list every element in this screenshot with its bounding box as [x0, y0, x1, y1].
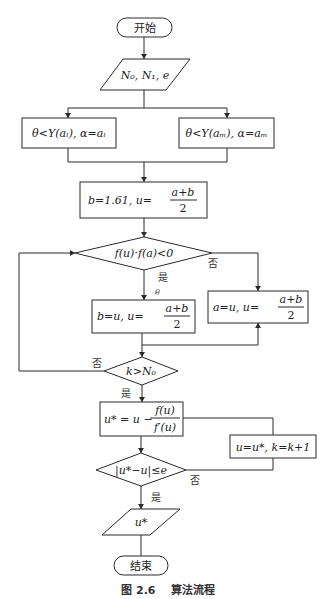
branch-right-label: θ<Y(aₘ), α=aₘ [186, 127, 268, 140]
update-b-numerator: a+b [166, 302, 189, 315]
figure-caption: 图 2.6 算法流程 [121, 583, 215, 597]
end-terminal: 结束 [114, 556, 168, 575]
theta-note: θ [155, 288, 160, 297]
newton-numerator: f(u) [154, 404, 175, 417]
branch-right-box: θ<Y(aₘ), α=aₘ [179, 118, 274, 148]
condition-3-label: |u*−u|≤e [115, 464, 168, 478]
branch-left-box: θ<Y(aₗ), α=aₗ [22, 118, 116, 148]
condition-3-yes: 是 [151, 492, 161, 503]
start-label: 开始 [134, 21, 156, 35]
condition-2-yes: 是 [121, 388, 131, 399]
update-k-label: u=u*, k=k+1 [236, 441, 311, 454]
start-terminal: 开始 [117, 18, 172, 37]
condition-2-no: 否 [92, 358, 102, 369]
newton-denominator: f′(u) [153, 421, 176, 434]
condition-1-yes: 是 [158, 272, 168, 283]
condition-2-label: k>N₀ [126, 365, 157, 378]
condition-3-no: 否 [190, 475, 200, 486]
update-b-denominator: 2 [174, 318, 181, 331]
input-parallelogram: N₀, N₁, e [100, 59, 190, 90]
output-parallelogram: u* [102, 509, 180, 535]
update-k-box: u=u*, k=k+1 [230, 435, 316, 458]
newton-step-box: u* = u − f(u) f′(u) [100, 402, 183, 436]
condition-3-diamond: |u*−u|≤e 是 否 [96, 453, 200, 503]
newton-prefix: u* = u − [104, 413, 153, 426]
condition-2-diamond: k>N₀ 是 否 [92, 357, 178, 399]
input-label: N₀, N₁, e [120, 69, 170, 82]
init-prefix: b=1.61, u= [88, 194, 152, 207]
update-a-box: a=u, u= a+b 2 [208, 291, 308, 323]
update-b-box: b=u, u= a+b 2 [92, 300, 195, 333]
update-a-numerator: a+b [280, 293, 303, 306]
init-box: b=1.61, u= a+b 2 [80, 182, 207, 218]
condition-1-no: 否 [208, 258, 218, 269]
update-a-denominator: 2 [288, 309, 295, 322]
condition-1-diamond: f(u)·f(a)<0 是 否 θ [75, 237, 218, 297]
update-b-prefix: b=u, u= [97, 310, 144, 323]
init-numerator: a+b [172, 186, 195, 199]
branch-left-label: θ<Y(aₗ), α=aₗ [32, 127, 106, 140]
output-label: u* [135, 516, 148, 529]
end-label: 结束 [130, 560, 152, 573]
condition-1-label: f(u)·f(a)<0 [114, 247, 174, 260]
init-denominator: 2 [180, 202, 187, 215]
update-a-prefix: a=u, u= [213, 301, 259, 314]
flowchart-canvas: 开始 N₀, N₁, e θ<Y(aₗ), α=aₗ θ<Y(aₘ), α=aₘ… [0, 0, 336, 599]
